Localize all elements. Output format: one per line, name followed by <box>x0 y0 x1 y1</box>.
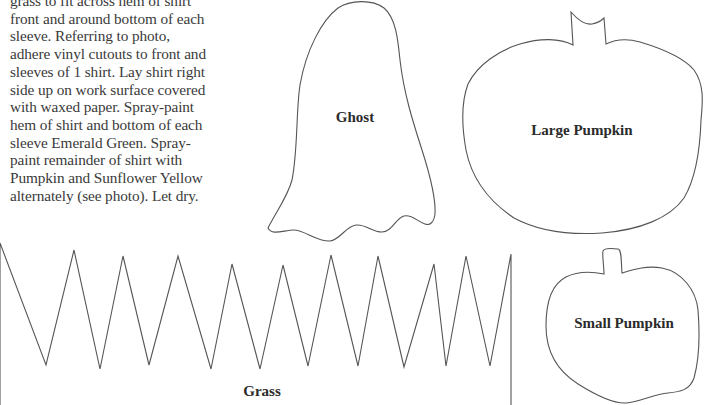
ghost-label: Ghost <box>336 109 374 126</box>
grass-pattern-outline <box>0 243 511 405</box>
grass-label: Grass <box>243 383 281 400</box>
small-pumpkin-label: Small Pumpkin <box>574 315 674 332</box>
pattern-sheet <box>0 0 706 405</box>
large-pumpkin-label: Large Pumpkin <box>531 122 632 139</box>
